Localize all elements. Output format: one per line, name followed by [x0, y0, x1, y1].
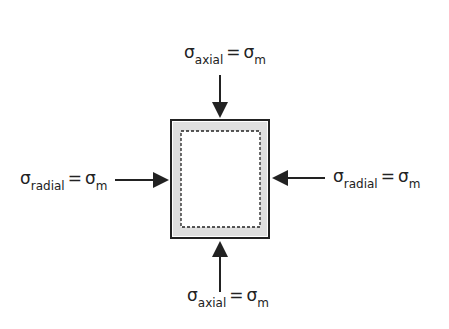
label-bottom: σaxial=σm — [187, 287, 269, 304]
label-left: σradial=σm — [20, 170, 107, 187]
label-top: σaxial=σm — [184, 44, 266, 61]
specimen-box — [171, 120, 269, 238]
inner-dashed-boundary — [181, 131, 260, 227]
label-right: σradial=σm — [333, 168, 420, 185]
